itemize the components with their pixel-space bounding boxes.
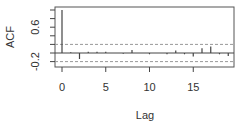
x-tick-label: 5 — [103, 81, 109, 93]
y-axis-label: ACF — [4, 26, 16, 48]
plot-frame — [55, 7, 234, 67]
x-axis-label: Lag — [136, 109, 154, 121]
x-tick-label: 0 — [59, 81, 65, 93]
y-tick-label: 0.6 — [29, 20, 41, 35]
x-tick-label: 15 — [187, 81, 199, 93]
y-tick-label: -0.2 — [29, 52, 41, 71]
x-tick-label: 10 — [143, 81, 155, 93]
acf-plot: -0.20.6051015ACFLag — [0, 0, 250, 127]
